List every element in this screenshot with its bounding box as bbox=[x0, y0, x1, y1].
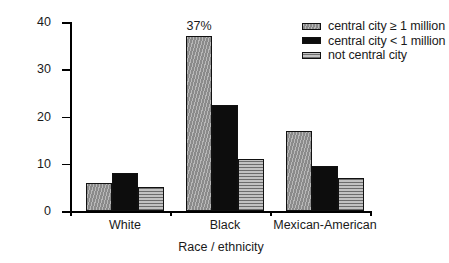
bar-white-central-city-ge-1m bbox=[86, 183, 112, 211]
y-tick-label-40: 40 bbox=[37, 15, 51, 29]
x-category-label-mexican-american: Mexican-American bbox=[273, 218, 377, 232]
bar-black-not-central-city bbox=[238, 159, 264, 211]
y-tick-label-0: 0 bbox=[44, 204, 51, 218]
legend-label-central-city-ge-1m: central city ≥ 1 million bbox=[328, 19, 445, 33]
bar-value-label-black-37: 37% bbox=[186, 19, 211, 33]
x-axis-title: Race / ethnicity bbox=[70, 240, 372, 254]
x-axis-line bbox=[70, 211, 372, 213]
legend-swatch-not-central-city bbox=[302, 52, 321, 59]
legend-label-central-city-lt-1m: central city < 1 million bbox=[328, 34, 445, 48]
x-tick-1 bbox=[170, 211, 172, 216]
legend-swatch-central-city-ge-1m bbox=[302, 23, 321, 30]
bar-black-central-city-ge-1m bbox=[186, 36, 212, 211]
x-category-label-black: Black bbox=[210, 218, 241, 232]
y-tick-label-30: 30 bbox=[37, 62, 51, 76]
bar-mexican-american-central-city-ge-1m bbox=[286, 131, 312, 211]
bar-mexican-american-central-city-lt-1m bbox=[312, 166, 338, 211]
legend-item-not-central-city: not central city bbox=[302, 48, 449, 63]
y-axis-line bbox=[70, 22, 72, 212]
legend-label-not-central-city: not central city bbox=[328, 48, 407, 62]
x-tick-3 bbox=[370, 211, 372, 216]
legend: central city ≥ 1 million central city < … bbox=[302, 19, 449, 63]
legend-swatch-central-city-lt-1m bbox=[302, 37, 321, 44]
x-tick-2 bbox=[270, 211, 272, 216]
y-tick-label-10: 10 bbox=[37, 157, 51, 171]
y-tick-label-20: 20 bbox=[37, 110, 51, 124]
bar-mexican-american-not-central-city bbox=[338, 178, 364, 211]
x-category-label-white: White bbox=[109, 218, 141, 232]
x-tick-0 bbox=[70, 211, 72, 216]
bar-chart: % of children ≥ 10 µg/dL 0 10 20 30 40 bbox=[0, 0, 449, 263]
legend-item-central-city-ge-1m: central city ≥ 1 million bbox=[302, 19, 449, 34]
y-tick-20: 20 bbox=[62, 117, 70, 119]
bar-black-central-city-lt-1m bbox=[212, 105, 238, 211]
y-tick-10: 10 bbox=[62, 164, 70, 166]
bar-white-central-city-lt-1m bbox=[112, 173, 138, 211]
y-tick-40: 40 bbox=[62, 22, 70, 24]
legend-item-central-city-lt-1m: central city < 1 million bbox=[302, 34, 449, 49]
y-tick-0: 0 bbox=[62, 211, 70, 213]
y-tick-30: 30 bbox=[62, 69, 70, 71]
bar-white-not-central-city bbox=[138, 187, 164, 211]
